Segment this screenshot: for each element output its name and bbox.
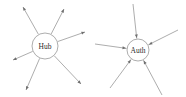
spoke-auth-3[interactable]	[95, 44, 127, 48]
spoke-hub-3[interactable]	[58, 32, 85, 42]
spoke-hub-6[interactable]	[54, 56, 81, 84]
spoke-auth-4[interactable]	[110, 59, 131, 88]
diagram-auth-fan-in: Auth	[95, 4, 178, 95]
spoke-auth-5[interactable]	[143, 60, 162, 95]
spoke-hub-5[interactable]	[26, 58, 40, 90]
spoke-auth-2[interactable]	[148, 30, 178, 45]
hub-spoke-diagram-canvas: Hub Auth	[0, 0, 186, 97]
spoke-hub-1[interactable]	[23, 7, 38, 34]
hub-node-label: Hub	[39, 42, 52, 51]
spoke-auth-3-arrow-icon	[122, 46, 126, 49]
spoke-hub-2[interactable]	[51, 9, 64, 34]
diagram-hub-fan-out: Hub	[13, 7, 85, 90]
auth-node-label: Auth	[131, 46, 146, 55]
spoke-hub-5-arrow-icon	[26, 86, 29, 90]
spoke-auth-4-arrow-icon	[128, 60, 131, 64]
spoke-hub-3-arrow-icon	[81, 32, 85, 35]
spoke-auth-1[interactable]	[133, 4, 137, 39]
